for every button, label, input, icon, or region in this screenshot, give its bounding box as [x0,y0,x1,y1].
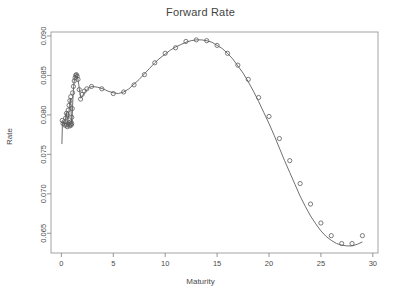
data-point [288,159,292,163]
data-point [142,73,146,77]
y-tick-label: 0.085 [39,66,48,85]
data-point [298,181,302,185]
forward-rate-chart: Forward Rate 0510152025300.0650.0700.075… [0,0,401,305]
x-tick-label: 5 [111,259,115,268]
x-tick-label: 15 [213,259,221,268]
x-tick-label: 10 [161,259,169,268]
x-tick-label: 25 [317,259,325,268]
y-tick-label: 0.090 [39,27,48,46]
fitted-curve-line [62,40,363,246]
data-point [350,241,354,245]
x-tick-label: 20 [265,259,273,268]
data-point [319,221,323,225]
data-point [111,91,115,95]
plot-canvas: 0510152025300.0650.0700.0750.0800.0850.0… [0,0,401,305]
y-tick-label: 0.065 [39,224,48,243]
data-point [70,91,74,95]
data-point [360,234,364,238]
y-axis-label: Rate [5,117,14,157]
y-tick-label: 0.075 [39,145,48,164]
x-axis-label: Maturity [0,277,401,286]
fitted-curve-path [62,40,363,246]
data-point [329,234,333,238]
data-point [257,95,261,99]
y-tick-label: 0.080 [39,105,48,124]
data-point [308,202,312,206]
y-tick-label: 0.070 [39,184,48,203]
data-point [267,114,271,118]
tick-labels-group: 0510152025300.0650.0700.0750.0800.0850.0… [39,27,377,268]
data-point [277,136,281,140]
x-tick-label: 30 [369,259,377,268]
x-tick-label: 0 [59,259,63,268]
observed-points-group [60,38,364,246]
axes-group [47,32,378,257]
